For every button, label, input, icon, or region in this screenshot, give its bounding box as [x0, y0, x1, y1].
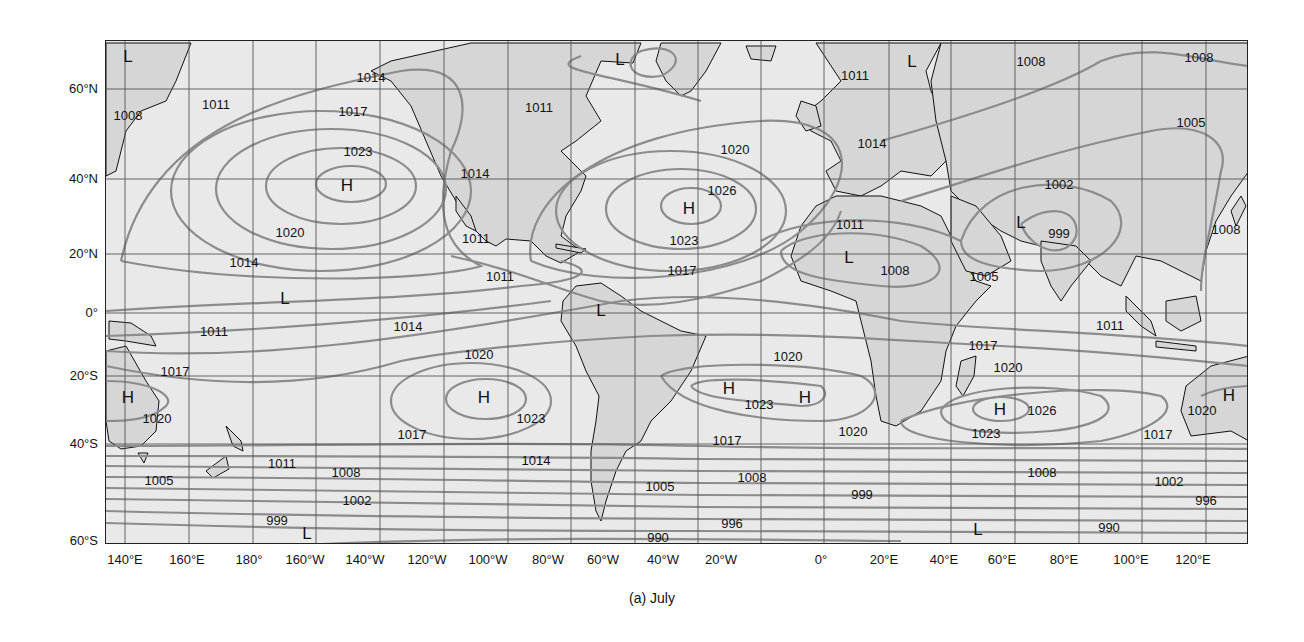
isobar-label: 1002 — [343, 493, 372, 508]
longitude-label: 100°E — [1113, 552, 1149, 567]
isobar-label: 1011 — [836, 217, 864, 232]
isobar-label: 1011 — [200, 324, 228, 339]
isobar-label: 1011 — [268, 456, 296, 471]
isobar-label: 999 — [1048, 226, 1070, 241]
isobar-label: 1020 — [465, 347, 494, 362]
isobar-label: 1017 — [1144, 427, 1173, 442]
isobar-label: 1005 — [145, 473, 174, 488]
high-pressure-center: H — [799, 388, 811, 408]
latitude-label: 0° — [38, 305, 98, 320]
longitude-label: 120°E — [1175, 552, 1211, 567]
longitude-label: 20°E — [870, 552, 898, 567]
isobar-label: 1017 — [668, 263, 697, 278]
longitude-label: 140°E — [107, 552, 143, 567]
isobar-label: 1005 — [646, 479, 675, 494]
isobar-label: 1011 — [1096, 318, 1124, 333]
isobar-label: 1008 — [881, 263, 910, 278]
isobar-label: 1020 — [994, 360, 1023, 375]
isobar-label: 1014 — [461, 166, 490, 181]
isobar-label: 1014 — [394, 319, 423, 334]
isobar-label: 1026 — [708, 183, 737, 198]
low-pressure-center: L — [844, 248, 853, 268]
isobar-label: 1023 — [745, 397, 774, 412]
longitude-label: 0° — [815, 552, 827, 567]
low-pressure-center: L — [302, 524, 311, 544]
sumatra — [1126, 296, 1156, 336]
longitude-label: 100°W — [468, 552, 507, 567]
isobar-label: 1005 — [1177, 115, 1206, 130]
isobar-label: 996 — [1195, 493, 1217, 508]
isobar-label: 1002 — [1045, 177, 1074, 192]
isobar-label: 1017 — [161, 364, 190, 379]
greenland — [656, 43, 721, 96]
isobar-label: 1011 — [525, 100, 553, 115]
latitude-label: 40°N — [38, 171, 98, 186]
longitude-label: 160°E — [169, 552, 205, 567]
latitude-label: 40°S — [38, 436, 98, 451]
latitude-label: 20°N — [38, 246, 98, 261]
isobar-label: 1020 — [774, 349, 803, 364]
longitude-label: 20°W — [705, 552, 737, 567]
isobar-label: 1008 — [1185, 50, 1214, 65]
longitude-label: 60°W — [587, 552, 619, 567]
longitude-label: 120°W — [407, 552, 446, 567]
isobar-label: 1011 — [462, 231, 490, 246]
latitude-label: 20°S — [38, 368, 98, 383]
low-pressure-center: L — [973, 520, 982, 540]
low-pressure-center: L — [615, 50, 624, 70]
low-pressure-center: L — [280, 289, 289, 309]
isobar-label: 1014 — [858, 136, 887, 151]
isobar-label: 999 — [266, 513, 288, 528]
longitude-label: 140°W — [345, 552, 384, 567]
latitude-label: 60°S — [38, 533, 98, 548]
high-pressure-center: H — [1223, 386, 1235, 406]
high-pressure-center: H — [683, 199, 695, 219]
isobar-label: 1008 — [738, 470, 767, 485]
longitude-label: 80°E — [1050, 552, 1078, 567]
isobar-label: 1017 — [339, 104, 368, 119]
isobar-label: 1002 — [1155, 474, 1184, 489]
isobar-label: 1020 — [721, 142, 750, 157]
isobar-label: 1020 — [1188, 403, 1217, 418]
isobar-label: 990 — [647, 530, 669, 545]
isobar-label: 990 — [1098, 520, 1120, 535]
longitude-label: 40°E — [930, 552, 958, 567]
isobar-label: 1008 — [1017, 54, 1046, 69]
longitude-label: 40°W — [647, 552, 679, 567]
longitude-label: 60°E — [988, 552, 1016, 567]
isobar-label: 999 — [851, 487, 873, 502]
longitude-label: 80°W — [532, 552, 564, 567]
isobar-label: 1017 — [969, 338, 998, 353]
isobar-label: 1017 — [398, 427, 427, 442]
low-pressure-center: L — [907, 52, 916, 72]
isobar-label: 1011 — [841, 68, 869, 83]
isobar-label: 996 — [721, 516, 743, 531]
isobar-label: 1020 — [143, 411, 172, 426]
isobar-label: 1023 — [972, 426, 1001, 441]
isobar-label: 1011 — [202, 97, 230, 112]
isobar-label: 1020 — [276, 225, 305, 240]
longitude-label: 180° — [236, 552, 263, 567]
isobar-label: 1008 — [1028, 465, 1057, 480]
australia-west — [1181, 356, 1248, 441]
low-pressure-center: L — [596, 301, 605, 321]
longitude-label: 160°W — [285, 552, 324, 567]
isobar-label: 1008 — [114, 108, 143, 123]
isobar-label: 1014 — [522, 453, 551, 468]
tasmania — [138, 453, 148, 463]
low-pressure-center: L — [1016, 213, 1025, 233]
south-america — [561, 283, 706, 521]
isobar-label: 1023 — [517, 411, 546, 426]
isobar-label: 1008 — [1212, 222, 1241, 237]
high-pressure-center: H — [122, 388, 134, 408]
high-pressure-center: H — [723, 379, 735, 399]
java — [1156, 341, 1196, 351]
isobar-label: 1005 — [970, 269, 999, 284]
isobar-label: 1017 — [713, 433, 742, 448]
isobar-label: 1011 — [486, 269, 514, 284]
low-pressure-center: L — [123, 47, 132, 67]
isobar-label: 1008 — [332, 465, 361, 480]
isobar-label: 1014 — [357, 70, 386, 85]
high-pressure-center: H — [994, 400, 1006, 420]
high-pressure-center: H — [478, 388, 490, 408]
